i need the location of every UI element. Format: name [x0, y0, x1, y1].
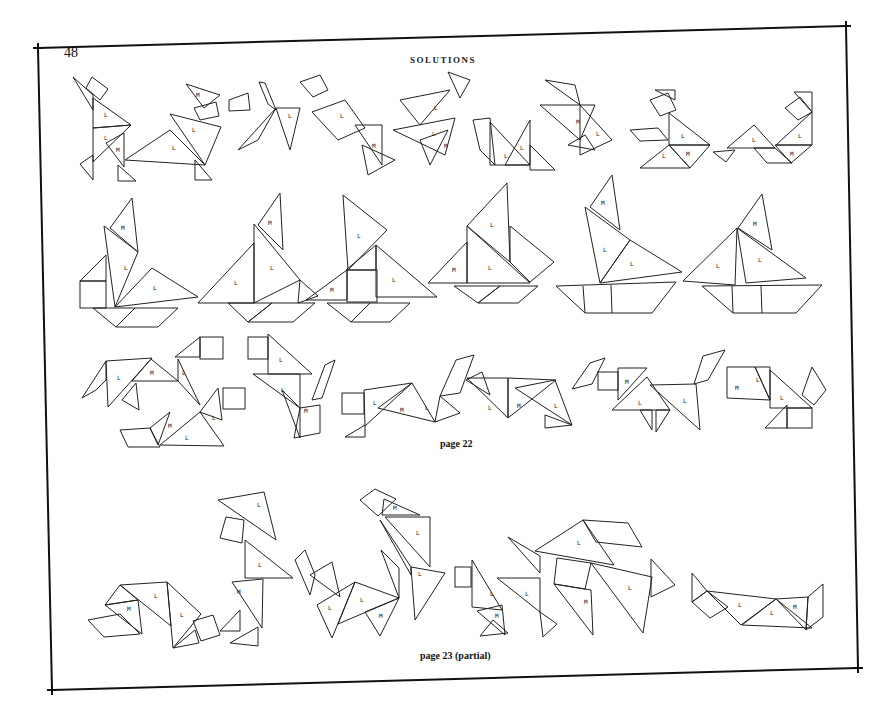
caption-page-22: page 22 [440, 438, 473, 449]
figures-row-2: MLL MLL LLM LLM [80, 175, 822, 327]
svg-text:M: M [168, 422, 172, 429]
figures-row-1: LLM MLL LLM LLM [73, 72, 812, 181]
svg-text:M: M [268, 219, 272, 226]
svg-text:M: M [625, 378, 629, 385]
svg-text:L: L [357, 232, 361, 239]
svg-text:L: L [683, 397, 687, 404]
svg-text:M: M [121, 224, 125, 231]
svg-text:M: M [379, 612, 383, 619]
svg-text:M: M [444, 142, 448, 149]
svg-text:L: L [554, 402, 558, 409]
svg-text:L: L [681, 132, 685, 139]
svg-text:L: L [392, 276, 396, 283]
svg-text:L: L [603, 246, 607, 253]
svg-text:L: L [279, 356, 283, 363]
svg-text:L: L [257, 501, 261, 508]
svg-text:M: M [400, 406, 404, 413]
svg-text:L: L [490, 590, 494, 597]
svg-text:L: L [373, 399, 377, 406]
svg-text:M: M [196, 91, 200, 98]
book-page: LLM MLL LLM LLM [0, 0, 872, 728]
svg-text:L: L [270, 264, 274, 271]
svg-text:L: L [212, 414, 216, 421]
svg-text:L: L [117, 374, 121, 381]
svg-text:L: L [185, 434, 189, 441]
svg-text:L: L [596, 130, 600, 137]
svg-text:M: M [452, 266, 456, 273]
svg-text:L: L [328, 604, 332, 611]
svg-text:M: M [127, 605, 131, 612]
svg-text:L: L [340, 112, 344, 119]
svg-text:L: L [638, 399, 642, 406]
figures-row-4: MLL LLM LLM MLL [88, 489, 823, 648]
svg-text:L: L [770, 609, 774, 616]
svg-text:M: M [753, 220, 757, 227]
svg-text:L: L [798, 132, 802, 139]
svg-text:L: L [752, 136, 756, 143]
svg-text:M: M [495, 612, 499, 619]
svg-text:L: L [418, 570, 422, 577]
svg-text:L: L [662, 152, 666, 159]
caption-page-23: page 23 (partial) [420, 650, 491, 661]
svg-text:M: M [304, 407, 308, 414]
svg-text:L: L [124, 264, 128, 271]
svg-text:L: L [780, 394, 784, 401]
svg-text:M: M [517, 402, 521, 409]
svg-text:M: M [793, 603, 797, 610]
svg-text:L: L [180, 611, 184, 618]
svg-text:L: L [716, 262, 720, 269]
svg-text:L: L [525, 590, 529, 597]
svg-text:L: L [154, 592, 158, 599]
svg-text:M: M [686, 150, 690, 157]
svg-text:L: L [258, 561, 262, 568]
svg-text:L: L [281, 386, 285, 393]
svg-text:L: L [488, 404, 492, 411]
svg-text:L: L [425, 404, 429, 411]
svg-text:L: L [577, 539, 581, 546]
svg-text:L: L [104, 111, 108, 118]
svg-text:M: M [330, 286, 334, 293]
svg-text:L: L [758, 256, 762, 263]
svg-text:M: M [584, 598, 588, 605]
svg-text:L: L [172, 144, 176, 151]
svg-text:L: L [432, 130, 436, 137]
svg-text:M: M [116, 146, 120, 153]
svg-text:L: L [756, 376, 760, 383]
page-border: LLM MLL LLM LLM [0, 0, 872, 728]
running-header: SOLUTIONS [410, 55, 476, 65]
svg-text:M: M [372, 142, 376, 149]
svg-text:L: L [628, 584, 632, 591]
svg-text:L: L [416, 529, 420, 536]
svg-text:L: L [192, 126, 196, 133]
svg-text:L: L [104, 134, 108, 141]
svg-text:M: M [735, 384, 739, 391]
svg-text:M: M [393, 504, 397, 511]
svg-text:L: L [504, 152, 508, 159]
page-number: 48 [64, 45, 78, 61]
svg-text:M: M [790, 150, 794, 157]
svg-text:L: L [182, 369, 186, 376]
svg-text:L: L [153, 284, 157, 291]
svg-text:L: L [738, 601, 742, 608]
svg-text:L: L [434, 104, 438, 111]
svg-text:M: M [150, 369, 154, 376]
svg-text:L: L [234, 279, 238, 286]
svg-text:L: L [490, 221, 494, 228]
svg-text:L: L [360, 596, 364, 603]
svg-text:M: M [576, 118, 580, 125]
svg-text:M: M [601, 199, 605, 206]
svg-text:L: L [520, 144, 524, 151]
svg-text:L: L [630, 260, 634, 267]
svg-text:M: M [237, 588, 241, 595]
svg-text:L: L [488, 264, 492, 271]
figures-row-3: LML MLL LLM LML LML [82, 334, 826, 447]
svg-text:L: L [288, 112, 292, 119]
